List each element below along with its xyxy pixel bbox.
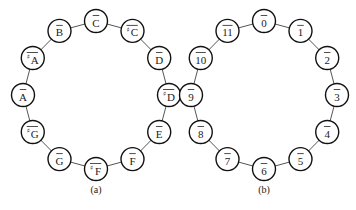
node-label: D [155, 54, 163, 66]
edges [191, 21, 337, 169]
node-label: G [56, 155, 64, 167]
node-label: F [129, 155, 135, 167]
sharp-icon: ♯ [163, 90, 166, 98]
node-e: E [148, 121, 171, 144]
node-9: 9 [180, 84, 203, 107]
caption-a: (a) [90, 184, 101, 196]
node-c: C [85, 10, 108, 33]
node-6: 6 [253, 158, 276, 181]
caption-b: (b) [258, 184, 270, 196]
node-label: A [19, 91, 27, 103]
node-label: 2 [324, 54, 330, 66]
node-sharp-a: A♯ [21, 47, 44, 70]
edges [23, 21, 169, 169]
pitch-class-circle-integers: 01234567891011 (b) [180, 10, 349, 197]
node-sharp-d: D♯ [158, 84, 181, 107]
node-10: 10 [189, 47, 212, 70]
node-label: F [95, 165, 101, 177]
node-8: 8 [189, 121, 212, 144]
node-b: B [48, 19, 71, 42]
node-label: D [167, 91, 175, 103]
node-label: 5 [298, 155, 304, 167]
node-label: 1 [298, 26, 304, 38]
node-label: C [131, 26, 138, 38]
node-label: E [156, 128, 163, 140]
node-a: A [12, 84, 35, 107]
diagram-canvas: CC♯DD♯EFF♯GG♯AA♯B (a) 01234567891011 (b) [0, 0, 356, 210]
node-d: D [148, 47, 171, 70]
node-label: C [92, 17, 99, 29]
node-label: 6 [261, 165, 267, 177]
node-g: G [48, 148, 71, 171]
pitch-class-circle-notes: CC♯DD♯EFF♯GG♯AA♯B (a) [12, 10, 181, 197]
node-label: 7 [225, 155, 231, 167]
node-5: 5 [289, 148, 312, 171]
node-sharp-g: G♯ [21, 121, 44, 144]
node-label: 11 [222, 26, 233, 38]
node-label: 8 [198, 128, 204, 140]
node-label: A [31, 54, 39, 66]
sharp-icon: ♯ [126, 26, 129, 34]
node-4: 4 [316, 121, 339, 144]
node-11: 11 [216, 19, 239, 42]
node-label: 3 [334, 91, 340, 103]
node-2: 2 [316, 47, 339, 70]
sharp-icon: ♯ [27, 53, 30, 61]
sharp-icon: ♯ [27, 127, 30, 135]
node-label: 0 [261, 17, 267, 29]
node-label: 10 [195, 54, 207, 66]
sharp-icon: ♯ [90, 164, 93, 172]
node-label: 9 [188, 91, 194, 103]
node-sharp-f: F♯ [85, 158, 108, 181]
node-3: 3 [326, 84, 349, 107]
node-7: 7 [216, 148, 239, 171]
node-label: 4 [324, 128, 330, 140]
node-0: 0 [253, 10, 276, 33]
node-1: 1 [289, 19, 312, 42]
node-label: G [31, 128, 39, 140]
nodes: CC♯DD♯EFF♯GG♯AA♯B [12, 10, 181, 181]
node-f: F [121, 148, 144, 171]
nodes: 01234567891011 [180, 10, 349, 181]
node-sharp-c: C♯ [121, 19, 144, 42]
node-label: B [56, 26, 63, 38]
